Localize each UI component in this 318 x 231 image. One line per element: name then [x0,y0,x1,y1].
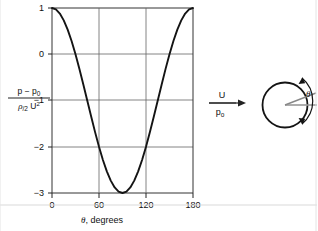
x-axis-title-text: , degrees [85,215,123,225]
pressure-distribution-figure: 1 0 −1 −2 −3 0 60 120 180 θ, degrees p −… [0,0,317,231]
y-tick-label-0: 0 [39,49,44,59]
freestream-annotation: U po [209,90,246,118]
figure-container: 1 0 −1 −2 −3 0 60 120 180 θ, degrees p −… [0,0,317,231]
svg-text:θ, degrees: θ, degrees [81,215,123,225]
svg-text:ρ/2 U2: ρ/2 U2 [17,101,40,112]
x-axis-title: θ, degrees [81,215,123,225]
y-tick-label-minus3: −3 [34,188,44,198]
y-axis-numerator-subscript: 0 [37,90,41,97]
y-tick-label-minus2: −2 [34,142,44,152]
flow-direction-arrow-icon [238,99,246,106]
freestream-velocity-label: U [219,90,226,100]
figure-border [0,0,317,231]
cylinder-schematic: θ [263,77,318,127]
svg-text:p − p0: p − p0 [18,86,41,97]
pressure-coefficient-curve [52,8,193,193]
freestream-pressure-subscript: o [221,111,225,118]
cylinder-radius-line [285,93,316,105]
y-axis-numerator: p − p [18,86,37,96]
y-tick-label-1: 1 [39,3,44,13]
plot-grid [52,8,193,193]
svg-text:po: po [216,107,225,118]
cylinder-angle-label: θ [306,89,311,99]
